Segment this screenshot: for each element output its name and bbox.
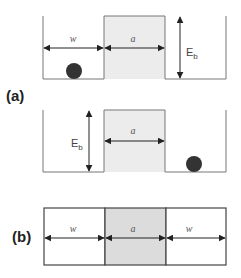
segment-left <box>44 208 105 265</box>
barrier-width-label: a <box>131 223 136 234</box>
barrier-width-label: a <box>131 125 136 136</box>
panel-a-bottom-potential: Eb a <box>43 110 226 172</box>
particle-ball <box>186 156 202 172</box>
segment-right <box>166 208 226 265</box>
panel-a-top-potential: w a Eb <box>43 16 226 79</box>
panel-b-geometry: w a w <box>44 208 226 265</box>
barrier-height-label: Eb <box>71 137 83 152</box>
panel-a-label: (a) <box>6 87 24 104</box>
left-width-label: w <box>70 223 77 234</box>
particle-ball <box>66 63 82 79</box>
well-width-label: w <box>70 33 77 44</box>
double-well-diagram: w a Eb (a) Eb a (b) w a w <box>0 0 241 278</box>
panel-b-label: (b) <box>12 228 31 245</box>
barrier-height-label: Eb <box>186 46 198 61</box>
segment-barrier <box>105 208 166 265</box>
barrier-width-label: a <box>131 33 136 44</box>
right-width-label: w <box>186 223 193 234</box>
